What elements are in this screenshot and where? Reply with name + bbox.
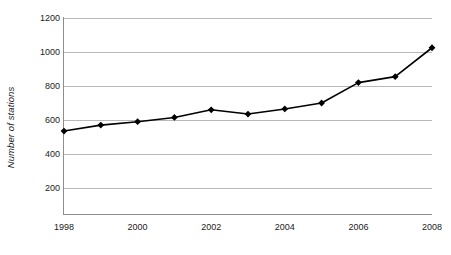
data-point-marker [208,106,215,113]
data-point-marker [245,111,252,118]
data-point-marker [281,106,288,113]
data-point-marker [355,79,362,86]
data-point-marker [61,128,68,135]
line-chart: Number of stations 20040060080010001200 … [0,0,451,255]
data-point-marker [318,100,325,107]
series-markers [61,44,436,134]
series-line [64,48,432,131]
data-series [0,0,451,255]
data-point-marker [171,114,178,121]
data-point-marker [97,122,104,129]
data-point-marker [134,118,141,125]
